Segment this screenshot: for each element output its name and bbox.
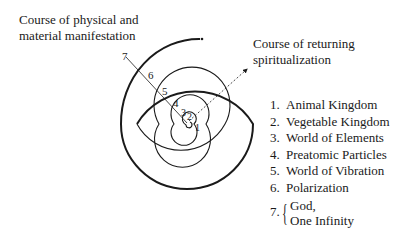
ring-number-4: 4	[173, 97, 179, 109]
legend-item-7: 7. { God, One Infinity	[270, 198, 390, 228]
legend-item: 3.World of Elements	[270, 130, 390, 147]
ring-number-2: 2	[187, 111, 192, 122]
legend-item: 1.Animal Kingdom	[270, 97, 390, 114]
legend-item: 5.World of Vibration	[270, 163, 390, 180]
radial-label-line	[126, 57, 187, 123]
ring-number-1: 1	[195, 122, 200, 133]
ring-number-5: 5	[162, 85, 168, 97]
ring-number-6: 6	[148, 69, 154, 81]
ring-number-3: 3	[181, 107, 186, 118]
legend-item: 6.Polarization	[270, 180, 390, 197]
brace-icon: {	[282, 198, 285, 228]
ring-number-7: 7	[122, 50, 128, 62]
legend-item: 4.Preatomic Particles	[270, 147, 390, 164]
legend: 1.Animal Kingdom 2.Vegetable Kingdom 3.W…	[270, 97, 390, 228]
legend-item: 2.Vegetable Kingdom	[270, 114, 390, 131]
spiral-end-dot	[201, 38, 204, 41]
